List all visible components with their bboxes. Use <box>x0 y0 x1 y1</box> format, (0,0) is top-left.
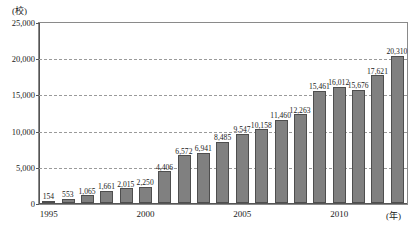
gridline <box>39 59 407 60</box>
gridline <box>39 132 407 133</box>
bar-slot: 12,263 <box>291 22 310 203</box>
y-tick-label: 0 <box>31 199 35 209</box>
bar[interactable]: 1,661 <box>100 191 113 203</box>
y-tick-mark <box>36 132 39 133</box>
bar-value-label: 1,065 <box>79 188 96 196</box>
bar-value-label: 12,263 <box>290 107 311 115</box>
gridline <box>39 95 407 96</box>
y-tick-label: 5,000 <box>16 163 35 173</box>
bar[interactable]: 15,676 <box>352 90 365 203</box>
bar-chart-figure: (校) 05,00010,00015,00020,00025,000 15455… <box>0 0 416 234</box>
bar-slot: 17,621 <box>368 22 387 203</box>
bar-slot: 15,461 <box>310 22 329 203</box>
x-axis-line <box>39 203 407 204</box>
x-axis-unit-label: (年) <box>386 209 401 222</box>
bar-value-label: 15,461 <box>309 83 330 91</box>
bar[interactable]: 2,250 <box>139 187 152 203</box>
y-tick-label: 20,000 <box>12 54 35 64</box>
bar-value-label: 1,661 <box>98 183 115 191</box>
bar-slot: 8,485 <box>213 22 232 203</box>
x-tick-label: 2000 <box>137 209 155 219</box>
bar-value-label: 6,941 <box>195 145 212 153</box>
bar-value-label: 10,158 <box>251 122 272 130</box>
y-tick-mark <box>36 168 39 169</box>
bar-slot: 1,661 <box>97 22 116 203</box>
bar-slot: 4,406 <box>155 22 174 203</box>
bar-slot: 20,310 <box>388 22 407 203</box>
bar-slot: 10,158 <box>252 22 271 203</box>
bar-value-label: 8,485 <box>214 134 231 142</box>
bar[interactable]: 12,263 <box>294 114 307 203</box>
bar-value-label: 15,676 <box>348 82 369 90</box>
bar-value-label: 553 <box>62 191 73 199</box>
bar[interactable]: 16,012 <box>333 87 346 203</box>
plot-area: 05,00010,00015,00020,00025,000 1545531,0… <box>38 22 408 205</box>
bar-slot: 6,572 <box>175 22 194 203</box>
bar-slot: 16,012 <box>330 22 349 203</box>
bar-value-label: 16,012 <box>328 79 349 87</box>
bar[interactable]: 6,941 <box>197 153 210 203</box>
bar-value-label: 2,250 <box>137 179 154 187</box>
y-tick-label: 25,000 <box>12 18 35 28</box>
bar-slot: 553 <box>58 22 77 203</box>
bar-value-label: 2,015 <box>117 181 134 189</box>
x-tick-label: 2010 <box>330 209 348 219</box>
bar[interactable]: 1,065 <box>81 195 94 203</box>
bar-value-label: 6,572 <box>175 148 192 156</box>
y-tick-label: 10,000 <box>12 127 35 137</box>
bar-slot: 11,460 <box>271 22 290 203</box>
bar-value-label: 11,460 <box>270 112 291 120</box>
y-tick-mark <box>36 95 39 96</box>
bar-slot: 2,015 <box>116 22 135 203</box>
bar[interactable]: 6,572 <box>178 155 191 203</box>
bar[interactable]: 4,406 <box>158 171 171 203</box>
y-tick-mark <box>36 59 39 60</box>
bar-slot: 6,941 <box>194 22 213 203</box>
bar[interactable]: 10,158 <box>255 129 268 203</box>
bar[interactable]: 20,310 <box>391 56 404 203</box>
bar-slot: 154 <box>39 22 58 203</box>
bar-value-label: 17,621 <box>367 68 388 76</box>
bar-slot: 2,250 <box>136 22 155 203</box>
x-tick-label: 2005 <box>233 209 251 219</box>
bar[interactable]: 2,015 <box>120 188 133 203</box>
bar[interactable]: 15,461 <box>313 91 326 203</box>
x-tick-label: 1995 <box>40 209 58 219</box>
bar-value-label: 20,310 <box>386 48 407 56</box>
y-tick-mark <box>36 23 39 24</box>
y-tick-label: 15,000 <box>12 90 35 100</box>
y-axis-line <box>39 23 40 204</box>
y-axis-unit-label: (校) <box>12 4 27 17</box>
bar[interactable]: 8,485 <box>216 142 229 203</box>
y-tick-mark <box>36 204 39 205</box>
gridline <box>39 168 407 169</box>
bar-slot: 1,065 <box>78 22 97 203</box>
bar-slot: 15,676 <box>349 22 368 203</box>
bar-slot: 9,547 <box>233 22 252 203</box>
bar-value-label: 9,547 <box>233 126 250 134</box>
bar-value-label: 154 <box>43 193 54 201</box>
